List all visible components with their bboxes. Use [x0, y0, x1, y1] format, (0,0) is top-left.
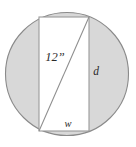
diagonal-length-label: 12” [45, 50, 65, 64]
figure-canvas: 12” d w [0, 0, 136, 147]
width-label: w [64, 118, 71, 129]
geometry-figure: 12” d w [0, 0, 136, 147]
height-label: d [93, 65, 99, 77]
